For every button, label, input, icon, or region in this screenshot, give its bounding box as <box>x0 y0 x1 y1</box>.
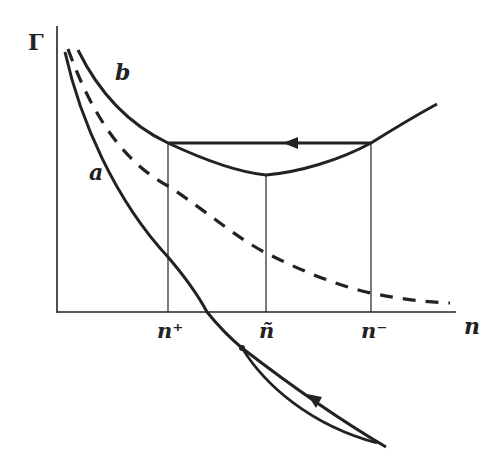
y-axis-label: Γ <box>28 29 44 55</box>
x-axis-label: n <box>464 313 480 339</box>
loop-node <box>239 345 245 351</box>
curve-a <box>65 52 386 447</box>
dashed-curve <box>68 49 450 303</box>
diagram-canvas: Γ n b a n⁺ ñ n⁻ <box>0 0 504 471</box>
curve-a-label: a <box>89 159 103 185</box>
curve-b <box>78 50 437 175</box>
arrow-left-icon <box>283 137 298 149</box>
curve-b-label: b <box>115 59 130 85</box>
tick-n-tilde: ñ <box>259 318 274 343</box>
tick-n-minus: n⁻ <box>361 318 387 343</box>
tick-n-plus: n⁺ <box>157 318 183 343</box>
